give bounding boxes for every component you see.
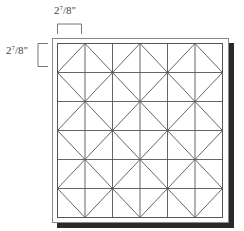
left-dimension-bracket <box>38 44 48 67</box>
top-dimension-bracket <box>58 24 82 34</box>
quilt-grid-diagram <box>0 0 244 231</box>
